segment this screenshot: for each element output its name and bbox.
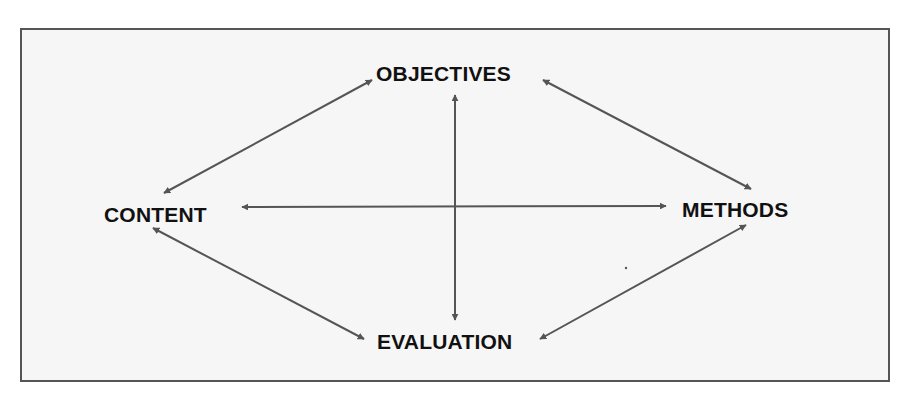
node-methods: METHODS [682,199,788,220]
arrow-methods-evaluation [540,225,746,339]
arrow-objectives-methods [543,80,751,189]
arrow-content-evaluation [153,228,364,339]
node-content: CONTENT [104,204,207,225]
arrow-objectives-content [164,80,372,193]
node-objectives: OBJECTIVES [376,63,511,84]
stray-dot [625,267,627,269]
node-evaluation: EVALUATION [377,331,512,352]
arrow-content-methods [242,206,666,207]
